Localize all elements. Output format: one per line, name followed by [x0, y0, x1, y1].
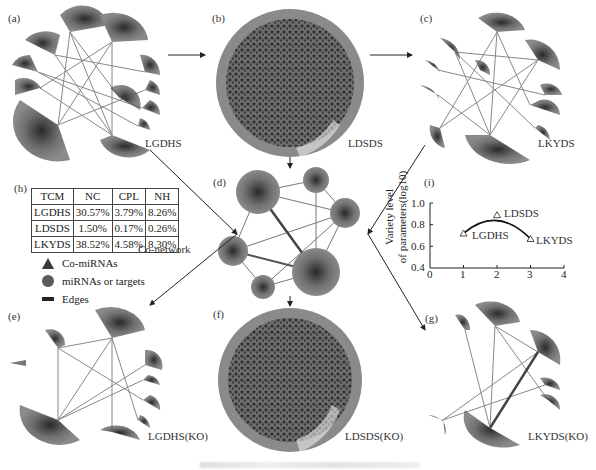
triangle-icon — [40, 258, 56, 269]
table-header: CPL — [112, 189, 145, 205]
network-name-a: LGDHS — [145, 137, 182, 149]
network-name-f: LDSDS(KO) — [345, 430, 403, 442]
point-label: LKYDS — [536, 234, 573, 246]
table-header: NC — [73, 189, 112, 205]
table-header-row: TCM NC CPL NH — [32, 189, 179, 205]
legend-item: miRNAs or targets — [40, 272, 145, 290]
panel-label-i: (i) — [424, 176, 434, 188]
table-row: LGDHS 30.57% 3.79% 8.26% — [32, 205, 179, 221]
network-a — [12, 6, 160, 162]
x-tick: 1 — [460, 268, 466, 280]
network-name-b: LDSDS — [348, 137, 383, 149]
network-g — [428, 301, 560, 447]
table-cell: 0.26% — [146, 221, 179, 237]
x-tick: 0 — [427, 268, 433, 280]
table-cell: 30.57% — [73, 205, 112, 221]
table-header: TCM — [32, 189, 74, 205]
network-e — [10, 307, 163, 445]
table-cell: LGDHS — [32, 205, 74, 221]
panel-label-d: (d) — [213, 176, 226, 188]
panel-label-c: (c) — [420, 12, 432, 24]
y-tick: 0.8 — [411, 218, 425, 230]
network-d — [218, 167, 360, 299]
y-tick: 0.6 — [411, 240, 425, 252]
table-cell: 38.52% — [73, 237, 112, 253]
table-cell: LDSDS — [32, 221, 74, 237]
table-cell: 8.26% — [146, 205, 179, 221]
network-name-e: LGDHS(KO) — [148, 430, 208, 442]
x-tick: 4 — [561, 268, 567, 280]
network-name-g: LKYDS(KO) — [528, 430, 588, 442]
table-cell: 1.50% — [73, 221, 112, 237]
network-b — [216, 9, 364, 157]
table-cell: 0.17% — [112, 221, 145, 237]
table-cell: LKYDS — [32, 237, 74, 253]
panel-label-b: (b) — [212, 12, 225, 24]
network-name-c: LKYDS — [538, 137, 575, 149]
table-cell: 3.79% — [112, 205, 145, 221]
x-tick: 2 — [494, 268, 500, 280]
network-f — [218, 308, 362, 452]
panel-label-e: (e) — [8, 310, 20, 322]
circle-icon — [40, 275, 56, 287]
panel-label-h: (h) — [14, 182, 27, 194]
x-tick: 3 — [527, 268, 533, 280]
legend-item: Co-miRNAs — [40, 254, 145, 272]
point-label: LDSDS — [504, 207, 539, 219]
table-row: LDSDS 1.50% 0.17% 0.26% — [32, 221, 179, 237]
co-network-label: Co-network — [138, 243, 191, 255]
figure-caption-blurred — [200, 462, 420, 468]
legend: Co-miRNAs miRNAs or targets Edges — [40, 254, 145, 308]
y-tick: 1.0 — [411, 197, 425, 209]
table-header: NH — [146, 189, 179, 205]
edge-line-icon — [40, 297, 56, 301]
panel-label-a: (a) — [8, 12, 20, 24]
point-label: LGDHS — [472, 229, 509, 241]
y-tick: 0.4 — [411, 261, 425, 273]
panel-label-g: (g) — [425, 312, 438, 324]
panel-label-f: (f) — [213, 308, 224, 320]
legend-item: Edges — [40, 290, 145, 308]
